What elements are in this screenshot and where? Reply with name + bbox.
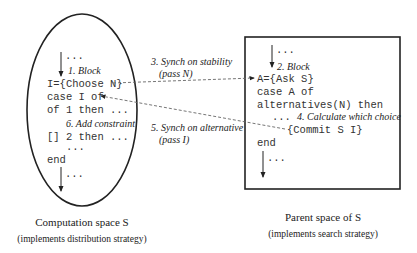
parent-space: ... 2. Block A={Ask S} case A of alterna… [245, 37, 401, 189]
dots-bottom: ... [267, 152, 286, 164]
diagram-canvas: ... 1. Block I={Choose N} case I of of 1… [0, 0, 417, 253]
code-line-4: [] 2 then ... [47, 131, 129, 143]
step-1-label: 1. Block [68, 65, 101, 76]
dots-top: ... [276, 44, 295, 56]
step-5-sublabel: (pass I) [159, 134, 190, 146]
code-line-5: end [47, 154, 66, 166]
code-line-3: alternatives(N) then [257, 99, 383, 111]
dots-bottom: ... [65, 168, 84, 180]
step-2-label: 2. Block [277, 61, 310, 72]
step-4-label: 4. Calculate which choice [297, 111, 401, 122]
code-line-1: A={Ask S} [257, 73, 314, 85]
parent-space-title: Parent space of S [285, 211, 361, 223]
step-6-label: 6. Add constraint [66, 118, 135, 129]
dots-top: ... [65, 50, 84, 62]
code-line-3: of 1 then ... [47, 104, 129, 116]
parent-space-subtitle: (implements search strategy) [268, 229, 378, 240]
computation-space-subtitle: (implements distribution strategy) [17, 234, 146, 245]
code-line-2: case I of [47, 91, 104, 103]
code-line-4: {Commit S I} [287, 124, 363, 136]
dots-mid: ... [66, 141, 85, 153]
step-5-label: 5. Synch on alternative [151, 122, 244, 133]
code-line-1: I={Choose N} [47, 78, 123, 90]
computation-space-title: Computation space S [35, 216, 129, 228]
dots-mid: ... [272, 111, 291, 123]
computation-space: ... 1. Block I={Choose N} case I of of 1… [27, 14, 137, 206]
code-line-2: case A of [257, 86, 314, 98]
code-line-5: end [257, 137, 276, 149]
step-3-sublabel: (pass N) [159, 68, 193, 80]
step-3-label: 3. Synch on stability [150, 56, 233, 67]
